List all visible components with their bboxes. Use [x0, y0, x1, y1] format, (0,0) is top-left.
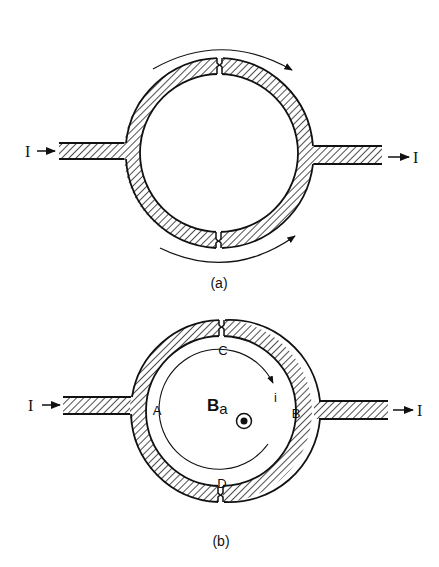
caption-b: (b) [212, 533, 229, 549]
panel-b: C A B D Ba i I I (b) [28, 318, 422, 549]
lead-right-b [314, 401, 388, 419]
circulating-current-label: i [274, 390, 277, 405]
lead-right-a [309, 146, 382, 164]
output-current-label-a: I [413, 149, 418, 166]
point-label-C: C [218, 343, 227, 358]
lead-left-b [63, 397, 137, 414]
squid-diagram: I I (a) [0, 0, 439, 567]
output-current-label-b: I [417, 402, 422, 419]
input-current-label-b: I [28, 397, 33, 414]
junction-top-C [219, 318, 224, 338]
junction-bottom-a [216, 230, 221, 250]
point-label-D: D [217, 476, 226, 491]
point-label-A: A [153, 403, 162, 418]
superconducting-ring-a [124, 58, 314, 248]
caption-a: (a) [210, 275, 227, 291]
panel-a: I I (a) [25, 50, 418, 291]
field-label: Ba [207, 396, 228, 417]
input-current-label-a: I [25, 143, 30, 160]
lead-left-a [59, 143, 131, 159]
junction-top-a [217, 56, 222, 76]
point-label-B: B [292, 406, 301, 421]
